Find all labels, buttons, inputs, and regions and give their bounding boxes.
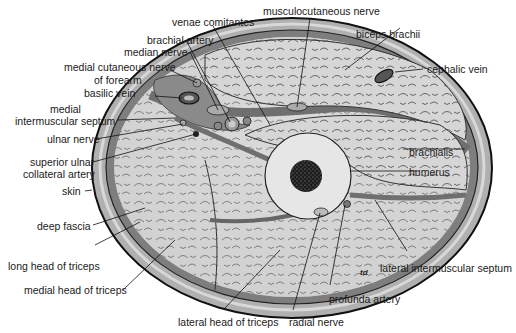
label-profunda-artery: profunda artery <box>329 293 400 305</box>
label-deep-fascia: deep fascia <box>37 220 91 232</box>
label-brachial-artery: brachial artery <box>147 34 214 46</box>
label-biceps-brachii: biceps brachii <box>356 28 420 40</box>
label-venae-comitantes: venae comitantes <box>172 16 254 28</box>
label-ulnar-nerve: ulnar nerve <box>47 133 100 145</box>
label-basilic-vein: basilic vein <box>84 87 135 99</box>
label-musculocutaneous-nerve: musculocutaneous nerve <box>263 5 380 17</box>
label-long-head-of-triceps: long head of triceps <box>8 260 100 272</box>
label-brachialis: brachialis <box>409 146 453 158</box>
label-medial-cutaneous-nerve-line2: of forearm <box>94 74 142 86</box>
venae-comitantes-2 <box>243 117 251 125</box>
label-superior-ulnar-line1: superior ulnar <box>30 156 94 168</box>
label-radial-nerve: radial nerve <box>289 316 344 328</box>
bone-marrow <box>290 160 322 192</box>
label-median-nerve: median nerve <box>124 46 188 58</box>
label-lateral-intermuscular-septum: lateral intermuscular septum <box>380 262 512 274</box>
venae-comitantes-1 <box>214 122 222 130</box>
label-superior-ulnar-line2: collateral artery <box>23 168 95 180</box>
ulnar-nerve <box>180 120 186 126</box>
radial-nerve <box>314 208 328 216</box>
label-medial-head-of-triceps: medial head of triceps <box>24 284 127 296</box>
label-medial-cutaneous-nerve-line1: medial cutaneous nerve <box>64 61 176 73</box>
artist-signature: td <box>360 268 368 277</box>
label-medial-intermuscular-septum-line1: medial <box>50 103 81 115</box>
label-medial-intermuscular-septum-line2: intermuscular septum <box>15 115 115 127</box>
label-humerus: humerus <box>409 166 450 178</box>
label-cephalic-vein: cephalic vein <box>427 63 488 75</box>
label-lateral-head-of-triceps: lateral head of triceps <box>178 316 278 328</box>
label-skin: skin <box>62 185 81 197</box>
arm-cross-section-diagram: venae comitantes musculocutaneous nerve … <box>0 0 516 333</box>
